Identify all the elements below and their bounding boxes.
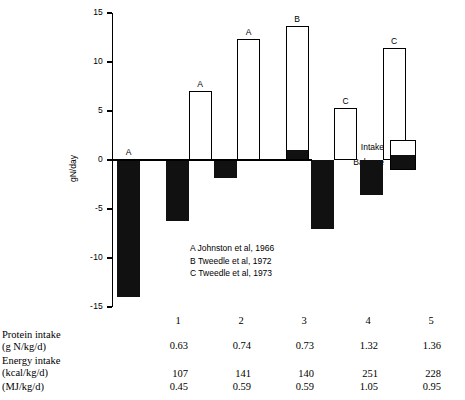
table-row-unit-label: (kcal/kg/d) — [2, 367, 48, 379]
y-axis-tick-label: -10 — [70, 252, 103, 262]
table-cell: 0.63 — [144, 340, 188, 351]
bar-group-label: A — [183, 79, 218, 89]
bar-group-label: A — [111, 147, 146, 157]
legend-swatch-balance-half — [391, 155, 415, 169]
table-row-label: Protein intake — [2, 329, 61, 341]
table-cell: 0.73 — [270, 340, 314, 351]
y-axis-tick-label: 15 — [70, 7, 103, 17]
table-column-header: 2 — [221, 315, 261, 326]
table-row-label: Energy intake — [2, 355, 60, 367]
bar-balance — [360, 160, 383, 195]
table-cell: 0.59 — [207, 381, 251, 392]
bar-group-label: C — [377, 36, 412, 46]
legend-swatch — [390, 140, 416, 170]
figure: 151050-5-10-15gN/dayAAABCCIntakeBalanceA… — [0, 0, 465, 400]
annotation-line: B Tweedle et al, 1972 — [190, 255, 274, 268]
table-cell: 1.36 — [397, 340, 441, 351]
table-row-unit-label: (MJ/kg/d) — [2, 381, 44, 393]
table-column-header: 4 — [348, 315, 388, 326]
table-row-unit-label: (g N/kg/d) — [2, 341, 46, 353]
y-axis-tick-label: 5 — [70, 105, 103, 115]
y-axis-tick — [107, 208, 112, 209]
data-table: 12345Protein intake(g N/kg/d)0.630.740.7… — [0, 315, 465, 400]
y-axis-title: gN/day — [68, 155, 78, 182]
table-cell: 1.32 — [334, 340, 378, 351]
table-cell: 140 — [270, 368, 314, 379]
bar-balance — [311, 160, 334, 229]
y-axis-tick — [107, 257, 112, 258]
zero-axis-line — [112, 159, 312, 161]
table-cell: 0.45 — [144, 381, 188, 392]
y-axis-tick-label: 10 — [70, 56, 103, 66]
bar-group-label: C — [328, 96, 363, 106]
table-column-header: 1 — [158, 315, 198, 326]
chart-plot-area: 151050-5-10-15gN/dayAAABCCIntakeBalanceA… — [0, 0, 465, 315]
table-cell: 0.59 — [270, 381, 314, 392]
bar-intake — [189, 91, 212, 160]
table-column-header: 3 — [284, 315, 324, 326]
y-axis-tick — [107, 110, 112, 111]
chart-annotations: A Johnston et al, 1966B Tweedle et al, 1… — [190, 242, 274, 280]
table-column-header: 5 — [411, 315, 451, 326]
legend-label-intake: Intake — [330, 142, 384, 152]
bar-balance — [214, 160, 237, 178]
table-cell: 251 — [334, 368, 378, 379]
y-axis-tick — [107, 61, 112, 62]
y-axis-tick — [107, 12, 112, 13]
table-cell: 107 — [144, 368, 188, 379]
table-cell: 0.95 — [397, 381, 441, 392]
chart-legend: IntakeBalance — [330, 140, 440, 180]
table-cell: 228 — [397, 368, 441, 379]
annotation-line: A Johnston et al, 1966 — [190, 242, 274, 255]
bar-group-label: A — [231, 27, 266, 37]
table-cell: 0.74 — [207, 340, 251, 351]
bar-balance — [166, 160, 189, 221]
table-cell: 1.05 — [334, 381, 378, 392]
y-axis-tick-label: -15 — [70, 301, 103, 311]
y-axis-tick — [107, 306, 112, 307]
annotation-line: C Tweedle et al, 1973 — [190, 267, 274, 280]
bar-intake — [237, 39, 260, 160]
y-axis-tick-label: -5 — [70, 203, 103, 213]
bar-group-label: B — [280, 14, 315, 24]
table-cell: 141 — [207, 368, 251, 379]
bar-balance — [117, 160, 140, 297]
bar-intake — [286, 26, 309, 160]
